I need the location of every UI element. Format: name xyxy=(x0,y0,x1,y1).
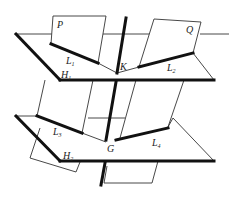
plane-h2 xyxy=(16,116,214,161)
label-point-k: K xyxy=(119,61,128,72)
plane-q-lower-part xyxy=(104,161,158,183)
label-plane-q: Q xyxy=(186,24,194,35)
label-plane-p: P xyxy=(56,19,63,30)
label-point-g: G xyxy=(107,143,114,154)
geometry-diagram: P Q K G L1 L2 L3 L4 H1 H2 xyxy=(0,0,229,197)
